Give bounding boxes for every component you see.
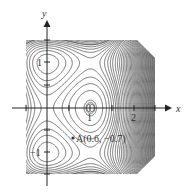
tick-label-x1: 1	[87, 112, 92, 123]
point-a-marker	[71, 136, 74, 139]
tick-label-x2: 2	[131, 112, 136, 123]
contour-plot: x y 1 2 1 −1 A(0.6, −0.7)	[0, 0, 195, 196]
tick-label-y1: 1	[37, 57, 42, 68]
tick-label-ym1: −1	[30, 147, 41, 158]
y-axis-arrow-icon	[44, 20, 51, 27]
point-a-label: A(0.6, −0.7)	[76, 133, 126, 145]
x-axis-arrow-icon	[165, 105, 172, 112]
y-axis-label: y	[41, 8, 47, 19]
x-axis-label: x	[175, 103, 181, 114]
